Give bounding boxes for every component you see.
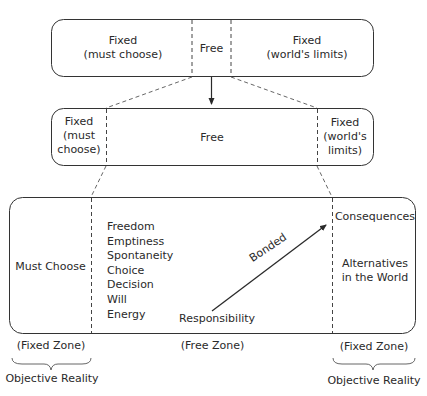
top-right-line1: Fixed: [252, 34, 362, 48]
top-right-line2: (world's limits): [252, 48, 362, 62]
middle-left-line2: (must: [53, 129, 105, 143]
right-brace-icon: [333, 358, 415, 370]
right-objective-reality-label: Objective Reality: [322, 374, 426, 388]
middle-right-line2: (world's: [318, 130, 372, 144]
right-zone-label: (Fixed Zone): [331, 340, 417, 354]
middle-right-label: Fixed (world's limits): [318, 116, 372, 158]
middle-right-line1: Fixed: [318, 116, 372, 130]
middle-left-line1: Fixed: [53, 115, 105, 129]
zoom-line-top-right: [231, 77, 317, 108]
zoom-line-middle-left: [91, 166, 106, 197]
alternatives-label: Alternatives in the World: [334, 257, 416, 285]
free-list-item: Decision: [107, 278, 173, 293]
left-objective-reality-label: Objective Reality: [2, 372, 102, 386]
free-list-item: Spontaneity: [107, 249, 173, 264]
free-list-item: Emptiness: [107, 235, 173, 250]
free-list-item: Will: [107, 293, 173, 308]
left-zone-label: (Fixed Zone): [8, 339, 94, 353]
middle-left-label: Fixed (must choose): [53, 115, 105, 157]
top-center-label: Free: [192, 42, 231, 56]
alternatives-line1: Alternatives: [334, 257, 416, 271]
middle-right-line3: limits): [318, 144, 372, 158]
center-zone-label: (Free Zone): [170, 339, 255, 353]
must-choose-label: Must Choose: [10, 260, 91, 274]
left-brace-icon: [12, 358, 91, 370]
top-right-label: Fixed (world's limits): [252, 34, 362, 62]
free-list-item: Freedom: [107, 220, 173, 235]
diagram-lines: [0, 0, 427, 396]
zoom-line-top-left: [106, 77, 192, 108]
zoom-line-middle-right: [317, 166, 332, 197]
alternatives-line2: in the World: [334, 271, 416, 285]
top-left-label: Fixed (must choose): [70, 34, 176, 62]
top-left-line1: Fixed: [70, 34, 176, 48]
free-list-item: Energy: [107, 308, 173, 323]
consequences-label: Consequences: [334, 210, 416, 224]
middle-left-line3: choose): [53, 143, 105, 157]
responsibility-label: Responsibility: [179, 312, 255, 326]
free-zone-list: Freedom Emptiness Spontaneity Choice Dec…: [107, 220, 173, 322]
free-list-item: Choice: [107, 264, 173, 279]
top-left-line2: (must choose): [70, 48, 176, 62]
middle-center-label: Free: [107, 131, 317, 145]
